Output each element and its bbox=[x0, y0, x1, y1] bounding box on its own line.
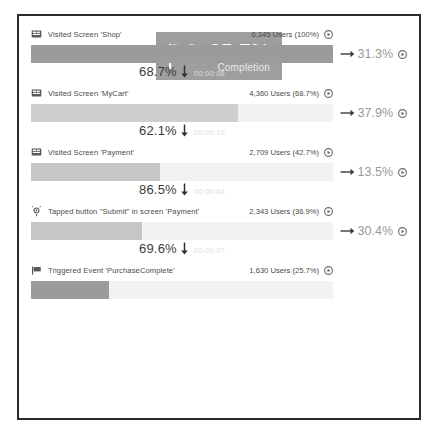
funnel-bar-fill bbox=[31, 281, 109, 299]
funnel-bar-track bbox=[31, 281, 333, 299]
funnel-conversion-row: 69.6%00:00:07 bbox=[31, 240, 407, 262]
funnel-conversion-row: 68.7%00:00:08 bbox=[31, 63, 407, 85]
funnel-bar-row: 37.9% bbox=[31, 104, 407, 122]
funnel-conversion-percent: 86.5% bbox=[139, 182, 177, 197]
funnel-conversion-row: 62.1%00:00:10 bbox=[31, 122, 407, 144]
funnel-bar-track bbox=[31, 222, 333, 240]
funnel-step-users: 2,709 Users (42.7%) bbox=[249, 148, 407, 157]
dropoff-arrow-icon bbox=[340, 226, 355, 236]
screen-icon bbox=[31, 29, 42, 40]
funnel-dropoff-percent: 37.9% bbox=[358, 106, 393, 120]
conversion-arrow-icon bbox=[180, 183, 189, 196]
funnel-dropoff-percent: 13.5% bbox=[358, 165, 393, 179]
funnel-step-users-text: 2,709 Users (42.7%) bbox=[249, 148, 319, 157]
funnel-step: Visited Screen 'Payment'2,709 Users (42.… bbox=[31, 144, 407, 203]
funnel-bar-row: 31.3% bbox=[31, 45, 407, 63]
funnel-conversion-percent: 68.7% bbox=[139, 64, 177, 79]
funnel-chart-frame: Visited Screen 'Shop'6,345 Users (100%)3… bbox=[17, 14, 421, 420]
info-circle-icon[interactable] bbox=[324, 207, 333, 216]
conversion-arrow-icon bbox=[180, 124, 189, 137]
screen-icon bbox=[31, 88, 42, 99]
info-circle-icon[interactable] bbox=[324, 30, 333, 39]
conversion-arrow-icon bbox=[180, 242, 189, 255]
funnel-step-header: Visited Screen 'Shop'6,345 Users (100%) bbox=[31, 26, 407, 42]
funnel-step-label: Visited Screen 'MyCart' bbox=[48, 89, 129, 98]
funnel-dropoff-group: 13.5% bbox=[333, 165, 407, 179]
funnel-avg-time: 00:00:04 bbox=[194, 187, 225, 196]
funnel-step: Visited Screen 'Shop'6,345 Users (100%)3… bbox=[31, 26, 407, 85]
funnel-step-label: Visited Screen 'Shop' bbox=[48, 30, 122, 39]
funnel-step-users-text: 6,345 Users (100%) bbox=[251, 30, 319, 39]
funnel-bar-fill bbox=[31, 45, 333, 63]
funnel-step-users: 1,630 Users (25.7%) bbox=[249, 266, 407, 275]
funnel-dropoff-percent: 30.4% bbox=[358, 224, 393, 238]
funnel-dropoff-group: 31.3% bbox=[333, 47, 407, 61]
info-circle-icon[interactable] bbox=[398, 168, 407, 177]
dropoff-arrow-icon bbox=[340, 108, 355, 118]
dropoff-arrow-icon bbox=[340, 167, 355, 177]
funnel-step-users-text: 4,360 Users (68.7%) bbox=[249, 89, 319, 98]
funnel-bar-track bbox=[31, 163, 333, 181]
funnel-bar-fill bbox=[31, 222, 142, 240]
info-circle-icon[interactable] bbox=[398, 50, 407, 59]
info-circle-icon[interactable] bbox=[398, 227, 407, 236]
funnel-bar-track bbox=[31, 104, 333, 122]
funnel-dropoff-group: 30.4% bbox=[333, 224, 407, 238]
funnel-conversion-percent: 62.1% bbox=[139, 123, 177, 138]
info-circle-icon[interactable] bbox=[324, 89, 333, 98]
funnel-conversion-percent: 69.6% bbox=[139, 241, 177, 256]
funnel-step-users: 2,343 Users (36.9%) bbox=[249, 207, 407, 216]
funnel-avg-time: 00:00:07 bbox=[194, 246, 225, 255]
screen-icon bbox=[31, 147, 42, 158]
funnel-bar-row: 30.4% bbox=[31, 222, 407, 240]
info-circle-icon[interactable] bbox=[324, 266, 333, 275]
funnel-dropoff-group: 37.9% bbox=[333, 106, 407, 120]
flag-icon bbox=[31, 265, 42, 276]
funnel-conversion-row: 86.5%00:00:04 bbox=[31, 181, 407, 203]
funnel-step-users: 6,345 Users (100%) bbox=[251, 30, 407, 39]
tap-icon bbox=[31, 206, 42, 217]
info-circle-icon[interactable] bbox=[398, 109, 407, 118]
funnel-step: Tapped button "Submit" in screen 'Paymen… bbox=[31, 203, 407, 262]
funnel-step-label: Triggered Event 'PurchaseComplete' bbox=[48, 266, 175, 275]
funnel-avg-time: 00:00:10 bbox=[194, 128, 225, 137]
funnel-bar-row: 13.5% bbox=[31, 163, 407, 181]
funnel-step-users-text: 1,630 Users (25.7%) bbox=[249, 266, 319, 275]
conversion-arrow-icon bbox=[180, 65, 189, 78]
funnel-step-header: Tapped button "Submit" in screen 'Paymen… bbox=[31, 203, 407, 219]
funnel-dropoff-percent: 31.3% bbox=[358, 47, 393, 61]
funnel-step: Triggered Event 'PurchaseComplete'1,630 … bbox=[31, 262, 407, 299]
funnel-step-header: Visited Screen 'MyCart'4,360 Users (68.7… bbox=[31, 85, 407, 101]
funnel-step-label: Visited Screen 'Payment' bbox=[48, 148, 134, 157]
funnel-bar-fill bbox=[31, 163, 160, 181]
funnel-step-list: Visited Screen 'Shop'6,345 Users (100%)3… bbox=[19, 16, 419, 299]
funnel-bar-fill bbox=[31, 104, 238, 122]
dropoff-arrow-icon bbox=[340, 49, 355, 59]
funnel-step-header: Visited Screen 'Payment'2,709 Users (42.… bbox=[31, 144, 407, 160]
funnel-avg-time: 00:00:08 bbox=[194, 69, 225, 78]
funnel-step-users: 4,360 Users (68.7%) bbox=[249, 89, 407, 98]
funnel-step-label: Tapped button "Submit" in screen 'Paymen… bbox=[48, 207, 199, 216]
funnel-bar-track bbox=[31, 45, 333, 63]
funnel-bar-row bbox=[31, 281, 407, 299]
funnel-step-header: Triggered Event 'PurchaseComplete'1,630 … bbox=[31, 262, 407, 278]
info-circle-icon[interactable] bbox=[324, 148, 333, 157]
funnel-step-users-text: 2,343 Users (36.9%) bbox=[249, 207, 319, 216]
funnel-step: Visited Screen 'MyCart'4,360 Users (68.7… bbox=[31, 85, 407, 144]
